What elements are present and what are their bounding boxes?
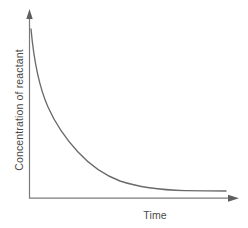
- chart-figure: Concentration of reactant Time: [0, 0, 248, 228]
- y-axis-label: Concentration of reactant: [13, 30, 25, 190]
- x-axis-arrow-icon: [228, 195, 239, 202]
- chart-plot-area: [0, 0, 248, 228]
- y-axis-arrow-icon: [26, 9, 32, 19]
- decay-curve: [31, 29, 226, 191]
- x-axis-label: Time: [115, 209, 195, 221]
